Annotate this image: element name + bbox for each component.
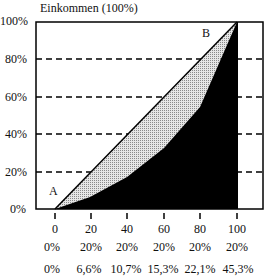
population-share-label: 0% <box>32 240 72 255</box>
y-tick-label: 60% <box>5 90 35 105</box>
y-tick-label: 100% <box>0 14 30 29</box>
income-share-label: 0% <box>32 262 72 277</box>
x-tick-label: 20 <box>71 222 111 237</box>
income-share-label: 45,3% <box>218 262 258 277</box>
y-tick-label: 40% <box>5 127 35 142</box>
x-ticks <box>55 213 237 219</box>
population-share-label: 20% <box>107 240 147 255</box>
x-tick-label: 40 <box>107 222 147 237</box>
x-tick-label: 80 <box>180 222 220 237</box>
y-tick-label: 80% <box>5 52 35 67</box>
income-share-label: 15,3% <box>143 262 183 277</box>
annotation-b: B <box>202 26 210 41</box>
population-share-label: 20% <box>71 240 111 255</box>
x-tick-label: 60 <box>144 222 184 237</box>
income-share-label: 10,7% <box>106 262 146 277</box>
x-tick-label: 100 <box>217 222 257 237</box>
x-tick-label: 0 <box>35 222 75 237</box>
population-share-label: 20% <box>144 240 184 255</box>
income-share-label: 6,6% <box>69 262 109 277</box>
annotation-a: A <box>49 184 58 199</box>
y-tick-label: 0% <box>10 202 40 217</box>
population-share-label: 20% <box>180 240 220 255</box>
y-tick-label: 20% <box>5 165 35 180</box>
population-share-label: 20% <box>217 240 257 255</box>
income-share-label: 22,1% <box>180 262 220 277</box>
